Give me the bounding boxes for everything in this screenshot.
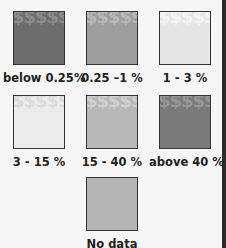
- legend-item-above-40: $$$$$$$$$$$$$$$$$$$$ above 40 %: [149, 95, 221, 169]
- swatch-15-40: $$$$$$$$$$$$$$$$$$$$: [86, 95, 138, 149]
- swatch-3-15: $$$$$$$$$$$$$$$$$$$$: [13, 95, 65, 149]
- dollar-pattern-icon: $$$$$$$$$$$$$$$$$$$$: [86, 95, 138, 109]
- legend-label: above 40 %: [149, 155, 221, 169]
- legend-label: 1 - 3 %: [149, 71, 221, 85]
- legend-item-15-40: $$$$$$$$$$$$$$$$$$$$ 15 - 40 %: [76, 95, 148, 169]
- swatch-0-25-1: $$$$$$$$$$$$$$$$$$$$: [86, 11, 138, 65]
- legend-item-3-15: $$$$$$$$$$$$$$$$$$$$ 3 - 15 %: [3, 95, 75, 169]
- legend-item-0-25-1: $$$$$$$$$$$$$$$$$$$$ 0.25 –1 %: [76, 11, 148, 85]
- dollar-pattern-icon: $$$$$$$$$$$$$$$$$$$$: [86, 11, 138, 25]
- legend-label: below 0.25%: [3, 71, 75, 85]
- dollar-pattern-icon: $$$$$$$$$$$$$$$$$$$$: [13, 95, 65, 109]
- swatch-above-40: $$$$$$$$$$$$$$$$$$$$: [159, 95, 211, 149]
- legend-item-no-data: No data: [76, 177, 148, 248]
- swatch-below-0-25: $$$$$$$$$$$$$$$$$$$$: [13, 11, 65, 65]
- right-edge-border: [222, 0, 226, 248]
- swatch-1-3: $$$$$$$$$$$$$$$$$$$$: [159, 11, 211, 65]
- legend-item-1-3: $$$$$$$$$$$$$$$$$$$$ 1 - 3 %: [149, 11, 221, 85]
- dollar-pattern-icon: $$$$$$$$$$$$$$$$$$$$: [159, 95, 211, 109]
- legend-label: No data: [76, 237, 148, 248]
- legend-label: 15 - 40 %: [76, 155, 148, 169]
- swatch-no-data: [86, 177, 138, 231]
- legend-item-below-0-25: $$$$$$$$$$$$$$$$$$$$ below 0.25%: [3, 11, 75, 85]
- dollar-pattern-icon: $$$$$$$$$$$$$$$$$$$$: [159, 11, 211, 25]
- legend-label: 0.25 –1 %: [76, 71, 148, 85]
- dollar-pattern-icon: $$$$$$$$$$$$$$$$$$$$: [13, 11, 65, 25]
- legend-label: 3 - 15 %: [3, 155, 75, 169]
